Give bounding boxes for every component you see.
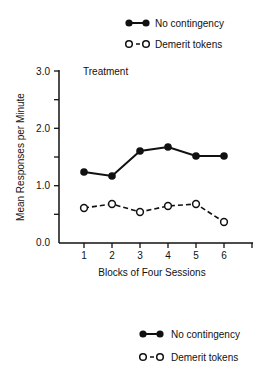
y-tick-label: 2.0 <box>36 123 50 134</box>
x-tick-label: 6 <box>221 250 227 261</box>
open-circle-icon <box>143 41 150 48</box>
x-tick-label: 1 <box>81 250 87 261</box>
data-point <box>108 172 116 180</box>
data-point <box>220 152 228 160</box>
filled-circle-icon <box>156 330 163 337</box>
chart: No contingency Demerit tokens 3.0 2.0 1.… <box>0 0 263 377</box>
filled-circle-icon <box>125 19 132 26</box>
data-point <box>109 201 116 208</box>
series-demerit-tokens <box>81 201 228 226</box>
data-point <box>193 201 200 208</box>
axes: 3.0 2.0 1.0 0.0 1 2 3 4 5 6 Blocks of Fo… <box>15 66 253 278</box>
x-tick-label: 2 <box>109 250 115 261</box>
open-circle-icon <box>126 41 133 48</box>
data-point <box>136 147 144 155</box>
x-tick-label: 3 <box>137 250 143 261</box>
legend-bottom: No contingency Demerit tokens <box>139 329 240 363</box>
legend-item-demerit-tokens: Demerit tokens <box>126 39 223 50</box>
data-point <box>81 205 88 212</box>
legend-label: Demerit tokens <box>155 39 222 50</box>
data-point <box>192 152 200 160</box>
data-point <box>137 209 144 216</box>
filled-circle-icon <box>139 330 146 337</box>
legend-label: No contingency <box>171 329 240 340</box>
legend-item-demerit-tokens: Demerit tokens <box>140 352 239 363</box>
open-circle-icon <box>157 354 164 361</box>
data-point <box>165 203 172 210</box>
x-axis-label: Blocks of Four Sessions <box>98 267 205 278</box>
treatment-annotation: Treatment <box>83 66 128 77</box>
y-tick-label: 0.0 <box>36 237 50 248</box>
data-point <box>221 219 228 226</box>
open-circle-icon <box>140 354 147 361</box>
legend-label: Demerit tokens <box>171 352 238 363</box>
legend-item-no-contingency: No contingency <box>125 18 224 29</box>
y-axis-label: Mean Responses per Minute <box>15 93 26 221</box>
y-tick-label: 1.0 <box>36 180 50 191</box>
x-tick-label: 5 <box>193 250 199 261</box>
x-tick-label: 4 <box>165 250 171 261</box>
legend-label: No contingency <box>155 18 224 29</box>
data-point <box>164 143 172 151</box>
legend-top: No contingency Demerit tokens <box>125 18 224 50</box>
series-no-contingency <box>80 143 228 180</box>
filled-circle-icon <box>142 19 149 26</box>
y-tick-label: 3.0 <box>36 66 50 77</box>
legend-item-no-contingency: No contingency <box>139 329 240 340</box>
data-point <box>80 168 88 176</box>
